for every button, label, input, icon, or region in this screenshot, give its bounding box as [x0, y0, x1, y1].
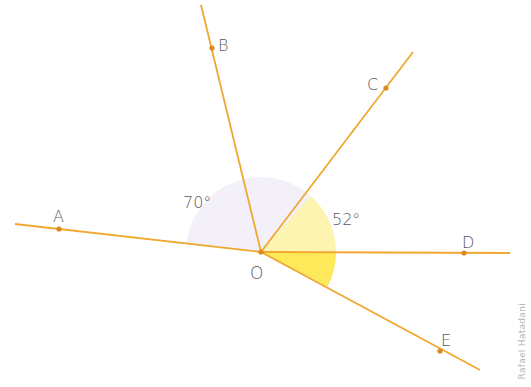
point-a — [56, 226, 61, 231]
label-e: E — [441, 331, 451, 350]
label-a: A — [53, 207, 64, 226]
label-o: O — [250, 263, 263, 283]
label-b: B — [218, 36, 228, 55]
ray-od — [261, 252, 510, 253]
ray-oe — [261, 252, 480, 370]
point-c — [383, 85, 388, 90]
label-d: D — [462, 233, 474, 252]
label-c: C — [367, 75, 378, 94]
angle-label-70: 70° — [183, 193, 211, 212]
point-o — [258, 249, 263, 254]
image-credit: Rafael Hatadani — [517, 303, 527, 379]
angle-diagram: A B C D E O 70° 52° — [0, 0, 531, 387]
angle-label-52: 52° — [332, 210, 360, 229]
point-b — [209, 45, 214, 50]
